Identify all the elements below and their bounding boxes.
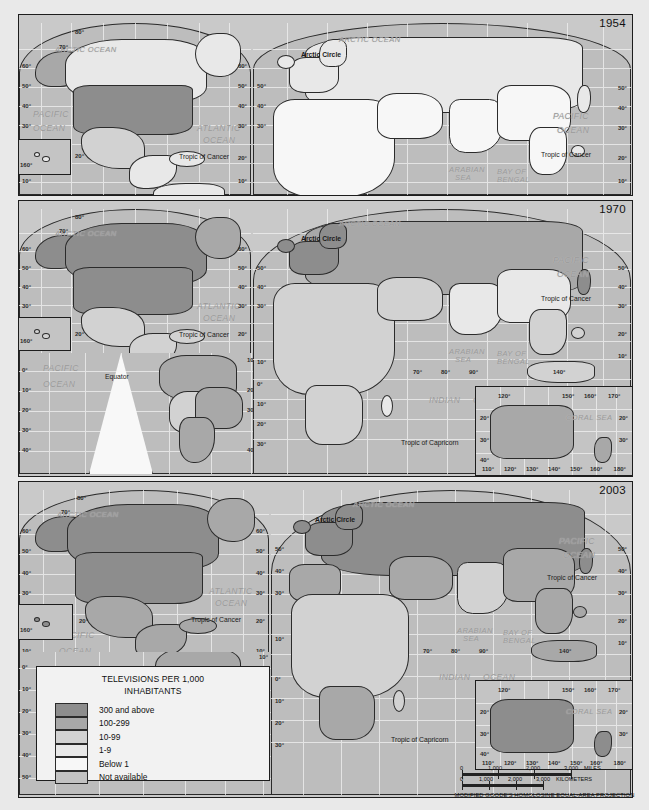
lat-tick-right-30: 30° bbox=[238, 123, 247, 129]
land-british-isles bbox=[293, 520, 311, 534]
legend-title-line2: INHABITANTS bbox=[45, 685, 261, 697]
scale-bar-km-line bbox=[462, 784, 544, 787]
lat-tick-right-50: 50° bbox=[256, 548, 265, 554]
lat-tick-right-30: 30° bbox=[256, 590, 265, 596]
lon-tick-b180: 180° bbox=[614, 760, 626, 766]
legend-entry: 1-9 bbox=[55, 744, 269, 758]
lat-tick-40: 40° bbox=[22, 447, 31, 453]
land-greenland bbox=[195, 217, 241, 259]
lat-tick-right-60: 60° bbox=[238, 63, 247, 69]
lat-tick-right-20: 20° bbox=[256, 618, 265, 624]
indian-label: INDIAN bbox=[429, 395, 460, 405]
lat-tick-50: 50° bbox=[257, 265, 266, 271]
land-southern-africa bbox=[305, 385, 363, 445]
land-india bbox=[457, 562, 509, 614]
equator-label: Equator bbox=[105, 373, 129, 380]
lat-tick-80: 80° bbox=[75, 29, 84, 35]
legend-swatch-100-299 bbox=[55, 717, 88, 731]
lat-tick-30: 30° bbox=[257, 123, 266, 129]
legend-title-line1: TELEVISIONS PER 1,000 bbox=[45, 673, 261, 685]
legend-entry: 300 and above bbox=[55, 703, 269, 717]
lat-tick-40: 40° bbox=[480, 751, 489, 757]
lat-tick-right-40: 40° bbox=[238, 284, 247, 290]
land-greenland bbox=[207, 498, 255, 542]
lat-tick-0: 0° bbox=[275, 676, 281, 682]
lat-tick-70: 70° bbox=[59, 44, 68, 50]
lon-tick-160: 160° bbox=[584, 393, 596, 399]
land-philippines bbox=[573, 606, 587, 618]
legend-label: Not available bbox=[99, 772, 147, 782]
lat-tick-30: 30° bbox=[257, 303, 266, 309]
lat-tick-40: 40° bbox=[22, 103, 31, 109]
lon-tick-90: 90° bbox=[479, 648, 488, 654]
tropic-of-capricorn-label: Tropic of Capricorn bbox=[391, 736, 449, 743]
pacific-label: PACIFIC bbox=[553, 255, 589, 265]
bay-of-bengal-label-2: BENGAL bbox=[503, 636, 536, 645]
lat-tick-0: 0° bbox=[22, 367, 28, 373]
lat-tick-60: 60° bbox=[22, 246, 31, 252]
projection-note: MODIFIED GOODE'S HOMOLOSINE EQUAL-AREA P… bbox=[452, 792, 637, 798]
arctic-circle-label: Arctic Circle bbox=[301, 51, 341, 58]
legend-title: TELEVISIONS PER 1,000 INHABITANTS bbox=[37, 667, 269, 699]
land-south-america-north bbox=[153, 183, 225, 195]
lat-tick-20: 20° bbox=[22, 708, 31, 714]
australia-inset: CORAL SEA 120° 150° 160° 170° 20° 30° 40… bbox=[475, 386, 633, 476]
hawaii-inset: 160° bbox=[19, 139, 71, 175]
lat-tick-s20: 20° bbox=[257, 421, 266, 427]
lat-tick-70: 70° bbox=[61, 509, 70, 515]
legend-label: Below 1 bbox=[99, 759, 129, 769]
lat-tick-40: 40° bbox=[480, 457, 489, 463]
scale-tick-km-2000: 2,000 bbox=[508, 776, 522, 782]
lon-tick-80: 80° bbox=[451, 648, 460, 654]
coral-sea-label: CORAL SEA bbox=[566, 707, 612, 716]
lon-tick-b140: 140° bbox=[548, 466, 560, 472]
legend-label: 100-299 bbox=[99, 718, 130, 728]
west-hemisphere-lobe: ARCTIC OCEAN ATLANTIC OCEAN Tropic of Ca… bbox=[19, 209, 251, 369]
lat-tick-right-40: 40° bbox=[618, 568, 627, 574]
scale-tick-miles-0: 0 bbox=[460, 765, 463, 771]
map-legend: TELEVISIONS PER 1,000 INHABITANTS 300 an… bbox=[36, 666, 270, 781]
legend-label: 10-99 bbox=[99, 732, 120, 742]
lat-tick-s30: 30° bbox=[275, 742, 284, 748]
lon-tick-b150: 150° bbox=[570, 466, 582, 472]
lat-tick-right-30: 30° bbox=[619, 437, 628, 443]
lat-tick-50: 50° bbox=[22, 774, 31, 780]
bay-of-bengal-label-2: BENGAL bbox=[497, 175, 530, 184]
land-india bbox=[449, 99, 503, 153]
land-hawaii-big bbox=[42, 621, 50, 627]
scale-tick-km-1000: 1,000 bbox=[479, 776, 493, 782]
hawaii-lon-tick: 160° bbox=[20, 162, 32, 168]
land-hawaii bbox=[34, 617, 40, 622]
east-hemisphere-lobe: ARCTIC OCEAN Arctic Circle ARABIAN SEA B… bbox=[253, 23, 631, 195]
arctic-ocean-label: ARCTIC OCEAN bbox=[339, 35, 400, 44]
land-hawaii-big bbox=[42, 156, 50, 162]
lat-tick-70: 70° bbox=[59, 228, 68, 234]
lat-tick-right-20: 20° bbox=[238, 331, 247, 337]
lat-tick-right-40: 40° bbox=[618, 105, 627, 111]
atlantic-ocean-label: OCEAN bbox=[215, 598, 247, 608]
lat-tick-30: 30° bbox=[22, 590, 31, 596]
pacific-label: PACIFIC bbox=[559, 536, 595, 546]
scale-tick-km-0: 0 bbox=[460, 776, 463, 782]
lat-tick-30: 30° bbox=[22, 123, 31, 129]
lat-tick-right-40: 40° bbox=[238, 103, 247, 109]
lat-tick-30: 30° bbox=[480, 731, 489, 737]
lat-tick-30: 30° bbox=[275, 590, 284, 596]
land-southeast-asia bbox=[529, 309, 567, 355]
pacific-label: PACIFIC bbox=[553, 111, 589, 121]
lat-tick-60: 60° bbox=[22, 528, 31, 534]
australia-inset: CORAL SEA 120° 150° 160° 170° 20° 30° 40… bbox=[475, 680, 633, 770]
land-madagascar bbox=[381, 395, 393, 417]
legend-label: 1-9 bbox=[99, 745, 111, 755]
atlantic-label: ATLANTIC bbox=[197, 123, 241, 133]
lon-tick-150: 150° bbox=[562, 687, 574, 693]
lat-tick-right-30: 30° bbox=[618, 303, 627, 309]
lon-tick-140: 140° bbox=[559, 648, 571, 654]
lat-tick-right-30: 30° bbox=[238, 303, 247, 309]
lat-tick-right-40: 40° bbox=[256, 570, 265, 576]
legend-swatch-10-99 bbox=[55, 730, 88, 744]
map-panel-1970: 1970 ARCTIC OCEAN ATLANTIC O bbox=[18, 200, 633, 477]
land-philippines bbox=[571, 327, 585, 339]
lat-tick-60: 60° bbox=[22, 63, 31, 69]
arabian-sea-label-2: SEA bbox=[463, 634, 479, 643]
